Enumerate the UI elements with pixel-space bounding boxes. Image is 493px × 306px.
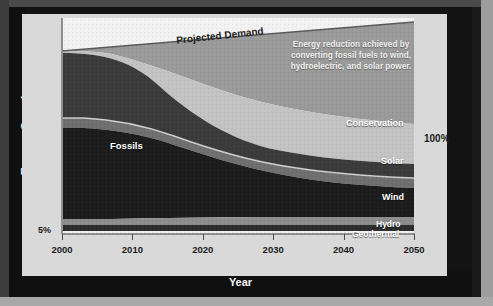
x-axis-title: Year: [9, 276, 472, 288]
label-band-hydro: Hydro: [376, 219, 401, 229]
label-band-conservation: Conservation: [346, 118, 404, 128]
label-band-wind: Wind: [382, 192, 404, 202]
label-band-fossils: Fossils: [110, 140, 143, 151]
x-tick-label: 2000: [51, 244, 72, 255]
x-tick-mark: [132, 234, 133, 240]
x-tick-mark: [273, 234, 274, 240]
label-band-solar: Solar: [381, 156, 404, 166]
label-band-geothermal: Geothermal: [352, 229, 399, 239]
x-tick-mark: [414, 234, 415, 240]
chart-figure: Energy Supply Year: [0, 0, 493, 306]
x-tick-mark: [203, 234, 204, 240]
x-tick-mark: [344, 234, 345, 240]
frame-bevel-left: [0, 0, 9, 306]
annotation-reduction-note: Energy reduction achieved by converting …: [288, 40, 414, 72]
y-tick-5-percent: 5%: [38, 225, 51, 235]
y-tick-100-percent: 100%: [424, 133, 450, 144]
x-tick-mark: [62, 234, 63, 240]
x-tick-label: 2030: [263, 244, 284, 255]
x-tick-label: 2040: [333, 244, 354, 255]
frame-bottom-edge: [0, 297, 493, 306]
frame-bevel-top: [0, 0, 493, 7]
x-tick-label: 2020: [192, 244, 213, 255]
frame-right-edge: [481, 0, 493, 306]
x-tick-label: 2050: [403, 244, 424, 255]
y-axis-line: [61, 18, 63, 234]
x-tick-label: 2010: [122, 244, 143, 255]
x-tick-group: 200020102020203020402050: [62, 240, 414, 256]
